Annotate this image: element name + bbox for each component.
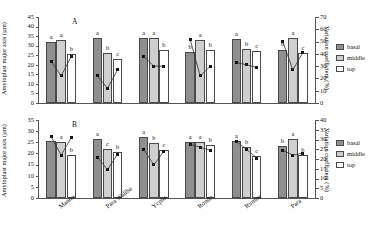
y-tick-label: 40: [20, 23, 34, 29]
y-tick-right-label: 30: [320, 63, 334, 69]
legend-swatch-middle: [336, 55, 344, 61]
y-tick-right-label: 50: [320, 38, 334, 44]
y-tick-right-label: 0: [320, 195, 334, 201]
y-tick-right-label: 20: [320, 75, 334, 81]
legend-swatch-basal: [336, 44, 344, 50]
y-tick-right: [316, 149, 319, 150]
y-tick-right: [316, 42, 319, 43]
legend-item-middle: middle: [336, 151, 365, 157]
y-tick-right: [316, 103, 319, 104]
legend-item-middle: middle: [336, 55, 365, 61]
y-tick-right: [316, 169, 319, 170]
y-tick-right-label: 0: [320, 100, 334, 106]
y-tick-right-label: 10: [320, 175, 334, 181]
panel-a: Amyloplast major axis (µm) Variation coe…: [0, 0, 392, 112]
y-tick-label: 35: [20, 33, 34, 39]
legend-item-basal: basal: [336, 44, 360, 50]
cv-line-overlay: [38, 120, 316, 198]
y-tick-label: 20: [20, 62, 34, 68]
legend-swatch-basal: [336, 140, 344, 146]
legend-label-middle: middle: [347, 55, 365, 61]
panel-a-y-axis-title: Amyloplast major axis (µm): [0, 8, 9, 108]
legend-label-basal: basal: [347, 140, 360, 146]
y-tick-label: 25: [20, 139, 34, 145]
y-tick-right-label: 5: [320, 185, 334, 191]
y-tick-label: 30: [20, 128, 34, 134]
y-tick-label: 35: [20, 117, 34, 123]
y-tick-label: 15: [20, 161, 34, 167]
y-tick-right: [316, 140, 319, 141]
y-tick-right-label: 25: [320, 146, 334, 152]
y-tick-right: [316, 66, 319, 67]
panel-a-plot-area: 051015202530354045010203040506070aababca…: [38, 17, 316, 103]
y-tick-right: [316, 198, 319, 199]
y-tick-right-label: 60: [320, 26, 334, 32]
legend-label-top: top: [347, 66, 355, 72]
y-tick-right-label: 15: [320, 166, 334, 172]
y-tick-label: 25: [20, 52, 34, 58]
y-tick: [36, 103, 39, 104]
y-tick-right: [316, 130, 319, 131]
y-tick-right: [316, 188, 319, 189]
y-tick-right: [316, 159, 319, 160]
y-tick: [36, 198, 39, 199]
legend-item-top: top: [336, 162, 355, 168]
y-tick-right: [316, 17, 319, 18]
legend-panel-a: basalmiddletop: [336, 44, 392, 78]
y-tick-label: 20: [20, 150, 34, 156]
y-tick-right-label: 70: [320, 14, 334, 20]
legend-item-top: top: [336, 66, 355, 72]
y-tick-right: [316, 54, 319, 55]
legend-label-middle: middle: [347, 151, 365, 157]
legend-label-top: top: [347, 162, 355, 168]
y-tick-right: [316, 29, 319, 30]
y-tick-right-label: 20: [320, 156, 334, 162]
legend-item-basal: basal: [336, 140, 360, 146]
y-tick-label: 30: [20, 42, 34, 48]
panel-b: Amyloplast major axis (µm) Variation coe…: [0, 112, 392, 244]
y-tick-label: 15: [20, 71, 34, 77]
x-axis-category-labels: MannoPara WalibaYcphaRondoRumnaPara: [38, 200, 316, 244]
y-tick-label: 5: [20, 90, 34, 96]
y-tick-label: 10: [20, 81, 34, 87]
cv-line-overlay: [38, 17, 316, 103]
x-axis-line: [38, 103, 316, 104]
legend-swatch-top: [336, 162, 344, 168]
panel-b-y-axis-title: Amyloplast major axis (µm): [0, 114, 9, 206]
y-tick-label: 45: [20, 14, 34, 20]
y-tick-label: 10: [20, 173, 34, 179]
figure: Amyloplast major axis (µm) Variation coe…: [0, 0, 392, 244]
y-tick-right: [316, 120, 319, 121]
legend-label-basal: basal: [347, 44, 360, 50]
y-tick-right: [316, 179, 319, 180]
legend-swatch-middle: [336, 151, 344, 157]
y-tick-right-label: 40: [320, 51, 334, 57]
y-tick-right-label: 10: [320, 88, 334, 94]
panel-b-plot-area: 051015202530350510152025303540aabacbabca…: [38, 120, 316, 198]
legend-swatch-top: [336, 66, 344, 72]
y-tick-right: [316, 78, 319, 79]
y-tick-label: 0: [20, 195, 34, 201]
y-tick-right-label: 35: [320, 127, 334, 133]
legend-panel-b: basalmiddletop: [336, 140, 392, 174]
y-tick-right-label: 40: [320, 117, 334, 123]
x-axis-line: [38, 198, 316, 199]
y-tick-right-label: 30: [320, 136, 334, 142]
y-tick-right: [316, 91, 319, 92]
y-tick-label: 0: [20, 100, 34, 106]
y-tick-label: 5: [20, 184, 34, 190]
